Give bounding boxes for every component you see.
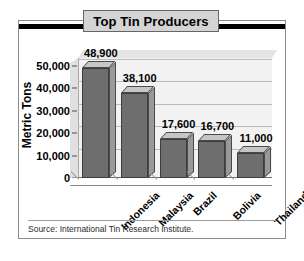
y-axis-tick-label: 20,000	[30, 128, 70, 139]
bar	[237, 146, 264, 178]
chart-figure: Top Tin Producers Metric Tons 010,00020,…	[0, 0, 304, 261]
y-axis-tickmark	[72, 133, 77, 134]
bar-value-label: 11,000	[239, 132, 273, 144]
y-axis-tick-label: 30,000	[30, 105, 70, 116]
bar-front-face	[160, 139, 187, 178]
bar-front-face	[198, 141, 225, 178]
source-note: Source: International Tin Research Insti…	[28, 224, 193, 234]
chart-title-banner: Top Tin Producers	[83, 10, 219, 32]
bar-value-label: 17,600	[162, 118, 196, 130]
bar-front-face	[121, 93, 148, 178]
y-axis-tick-label: 50,000	[30, 61, 70, 72]
bar	[82, 61, 109, 178]
chart-title: Top Tin Producers	[93, 14, 208, 29]
y-axis-tick-label: 10,000	[30, 150, 70, 161]
plot-left-face	[70, 58, 78, 183]
y-axis-tickmark	[72, 155, 77, 156]
y-axis-tick-label: 0	[30, 173, 70, 184]
bar	[160, 132, 187, 178]
y-axis-tickmark	[72, 88, 77, 89]
bar-top-face	[121, 86, 154, 93]
source-divider	[28, 220, 276, 221]
bar	[198, 134, 225, 178]
bar-top-face	[160, 132, 193, 139]
bar-value-label: 48,900	[84, 47, 118, 59]
y-axis-tick-label: 40,000	[30, 83, 70, 94]
bar-value-label: 16,700	[200, 120, 234, 132]
bar	[121, 86, 148, 178]
bar-front-face	[237, 153, 264, 178]
plot-floor-edge	[70, 185, 272, 186]
bar-value-label: 38,100	[123, 72, 157, 84]
y-axis-ticks: 010,00020,00030,00040,00050,000	[30, 0, 70, 261]
bar-side-face	[148, 86, 155, 178]
y-axis-tickmark	[72, 110, 77, 111]
bar-side-face	[109, 62, 116, 178]
y-axis-tickmark	[72, 66, 77, 67]
bar-front-face	[82, 68, 109, 178]
